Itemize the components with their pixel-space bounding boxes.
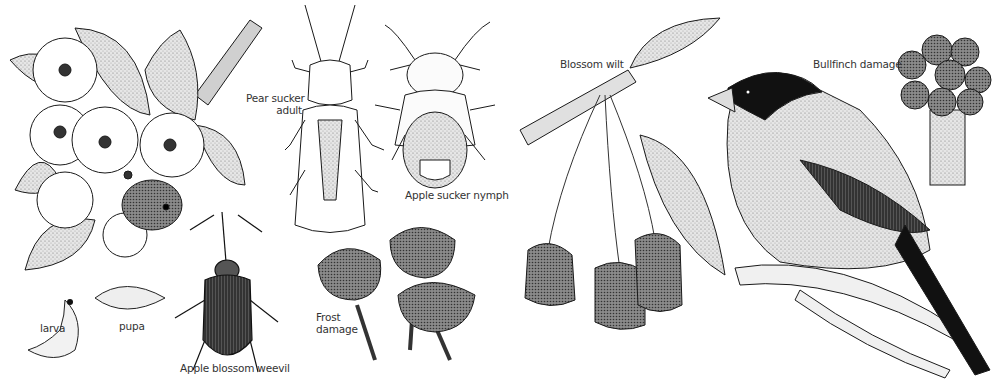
label-bullfinch-damage: Bullfinch damage xyxy=(813,58,901,70)
label-larva: larva xyxy=(40,322,65,334)
apple-sucker-nymph-drawing xyxy=(375,22,495,188)
label-blossom-wilt: Blossom wilt xyxy=(560,58,624,70)
label-pear-sucker: Pear sucker adult xyxy=(246,92,302,116)
pest-illustration-plate: larva pupa Apple blossom weevil Pear suc… xyxy=(0,0,998,385)
label-frost-damage: Frost damage xyxy=(316,311,358,335)
label-pear-sucker-line2: adult xyxy=(246,104,302,116)
bullfinch-damage-buds-drawing xyxy=(898,35,991,185)
pupa-drawing xyxy=(95,287,165,310)
pear-sucker-adult-drawing xyxy=(285,5,384,233)
label-pupa: pupa xyxy=(119,320,145,332)
label-pear-sucker-line1: Pear sucker xyxy=(246,92,302,104)
label-frost-line2: damage xyxy=(316,323,358,335)
frost-damage-flowers-drawing xyxy=(318,228,475,361)
apple-blossom-weevil-drawing xyxy=(175,212,278,372)
label-apple-blossom-weevil: Apple blossom weevil xyxy=(180,362,290,374)
label-apple-sucker-nymph: Apple sucker nymph xyxy=(405,189,509,201)
label-frost-line1: Frost xyxy=(316,311,358,323)
